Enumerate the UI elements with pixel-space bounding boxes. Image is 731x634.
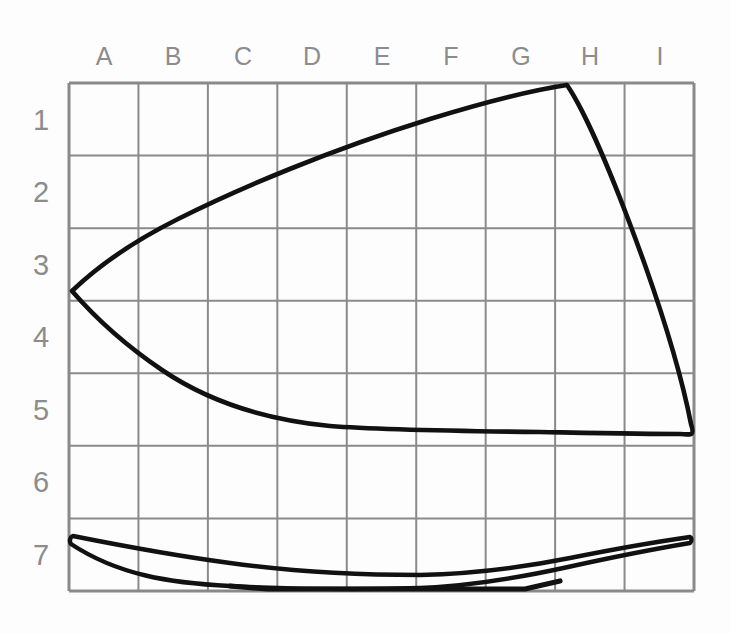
row-label-2: 2 bbox=[24, 178, 58, 207]
column-label-e: E bbox=[362, 44, 402, 69]
column-label-c: C bbox=[223, 44, 263, 69]
column-label-h: H bbox=[570, 44, 610, 69]
row-label-5: 5 bbox=[24, 396, 58, 425]
technical-drawing-figure: A B C D E F G H I 1 2 3 4 5 6 7 bbox=[0, 0, 731, 634]
row-label-1: 1 bbox=[24, 106, 58, 135]
row-label-4: 4 bbox=[24, 323, 58, 352]
column-label-b: B bbox=[153, 44, 193, 69]
soleplate-baseline bbox=[230, 581, 560, 589]
row-label-6: 6 bbox=[24, 468, 58, 497]
column-label-g: G bbox=[501, 44, 541, 69]
iron-profile-drawing bbox=[0, 0, 731, 634]
iron-outline bbox=[70, 85, 693, 589]
grid-lines bbox=[69, 83, 694, 591]
iron-body-outline bbox=[72, 85, 693, 434]
column-label-a: A bbox=[84, 44, 124, 69]
soleplate-outline bbox=[70, 536, 692, 589]
column-label-d: D bbox=[292, 44, 332, 69]
row-label-3: 3 bbox=[24, 251, 58, 280]
column-label-i: I bbox=[640, 44, 680, 69]
row-label-7: 7 bbox=[24, 541, 58, 570]
column-label-f: F bbox=[431, 44, 471, 69]
